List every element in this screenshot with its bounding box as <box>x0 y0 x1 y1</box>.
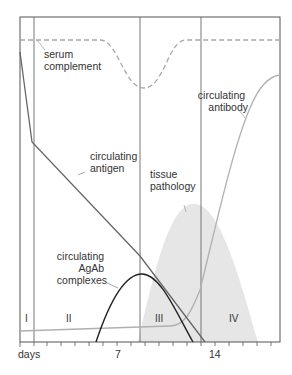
serum-complement-label: serum complement <box>44 48 101 72</box>
tick-label-7: 7 <box>115 348 121 360</box>
phase-label-IV: IV <box>229 313 239 324</box>
tick-label-14: 14 <box>209 348 221 360</box>
immune-complex-chart: days 7 14 I II III IV serum complement c… <box>0 0 292 375</box>
phase-label-I: I <box>25 313 28 324</box>
x-axis-ticks <box>20 342 271 347</box>
phase-label-III: III <box>155 313 163 324</box>
agab-complexes-label: circulating AgAb complexes <box>57 250 107 286</box>
circulating-antigen-label: circulating antigen <box>90 150 140 174</box>
phase-label-II: II <box>66 313 72 324</box>
tissue-pathology-label: tissue pathology <box>150 168 196 192</box>
tick-label-days: days <box>18 348 40 360</box>
circulating-antibody-label: circulating antibody <box>198 89 249 113</box>
